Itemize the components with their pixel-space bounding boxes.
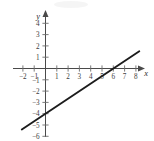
x-tick-label-2: 2 xyxy=(66,73,70,81)
graph-figure: −2 −1 1 2 3 4 5 6 7 8 4 3 2 1 −1 −2 −3 −… xyxy=(0,0,154,141)
x-tick-label-6: 6 xyxy=(112,73,116,81)
x-tick-label-3: 3 xyxy=(78,73,82,81)
x-tick-label-1: 1 xyxy=(55,73,59,81)
y-tick-label--2: −2 xyxy=(32,88,40,96)
x-tick-label-4: 4 xyxy=(89,73,93,81)
y-tick-label-1: 1 xyxy=(36,54,40,62)
x-tick-label--2: −2 xyxy=(19,73,27,81)
x-axis-label: x xyxy=(143,69,148,78)
y-tick-label-4: 4 xyxy=(36,20,40,28)
coordinate-plane: −2 −1 1 2 3 4 5 6 7 8 4 3 2 1 −1 −2 −3 −… xyxy=(0,0,154,141)
y-axis-arrow-icon xyxy=(43,10,49,17)
y-tick-label--6: −6 xyxy=(32,133,40,141)
x-tick-label-7: 7 xyxy=(123,73,127,81)
y-tick-label--3: −3 xyxy=(32,99,40,107)
y-axis-label: y xyxy=(35,12,40,21)
y-tick-label-3: 3 xyxy=(36,31,40,39)
y-tick-label-2: 2 xyxy=(36,43,40,51)
x-tick-label-8: 8 xyxy=(134,73,138,81)
y-tick-label--1: −1 xyxy=(32,77,40,85)
